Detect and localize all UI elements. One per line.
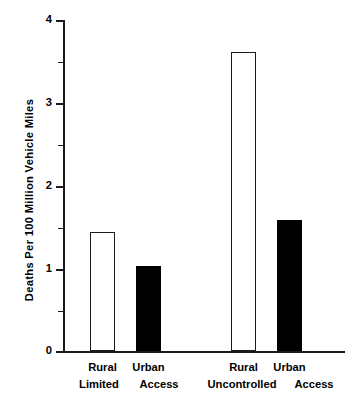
y-tick-label-4: 4 xyxy=(12,14,52,25)
y-tick-major-2 xyxy=(56,186,63,188)
x-group-label-uncontrolled-line2: Access xyxy=(285,379,343,390)
bar-rural-uncontrolled-access xyxy=(231,52,256,351)
y-axis-line xyxy=(63,20,65,353)
bar-urban-uncontrolled-access xyxy=(277,220,302,351)
y-tick-major-0 xyxy=(56,351,63,353)
x-label-rural-uncontrolled: Rural xyxy=(218,362,269,373)
bar-urban-limited-access xyxy=(136,266,161,351)
y-tick-major-4 xyxy=(56,20,63,22)
y-tick-label-3: 3 xyxy=(12,97,52,108)
y-axis-title: Deaths Per 100 Million Vehicle Miles xyxy=(14,0,44,400)
y-tick-major-3 xyxy=(56,103,63,105)
y-tick-minor-0p5 xyxy=(58,311,63,313)
y-tick-minor-1p5 xyxy=(58,228,63,230)
y-tick-label-2: 2 xyxy=(12,180,52,191)
x-label-urban-limited: Urban xyxy=(123,362,174,373)
y-tick-minor-2p5 xyxy=(58,145,63,147)
x-axis-line xyxy=(63,351,345,353)
y-tick-label-1: 1 xyxy=(12,263,52,274)
x-label-rural-limited: Rural xyxy=(77,362,128,373)
bar-rural-limited-access xyxy=(90,232,115,351)
x-group-label-uncontrolled-line1: Uncontrolled xyxy=(200,379,284,390)
bar-chart: Deaths Per 100 Million Vehicle Miles 4 3… xyxy=(0,0,357,400)
y-tick-major-1 xyxy=(56,269,63,271)
y-tick-label-0: 0 xyxy=(12,345,52,356)
x-group-label-limited-line1: Limited xyxy=(70,379,128,390)
y-tick-minor-3p5 xyxy=(58,62,63,64)
x-group-label-limited-line2: Access xyxy=(130,379,188,390)
x-label-urban-uncontrolled: Urban xyxy=(264,362,315,373)
